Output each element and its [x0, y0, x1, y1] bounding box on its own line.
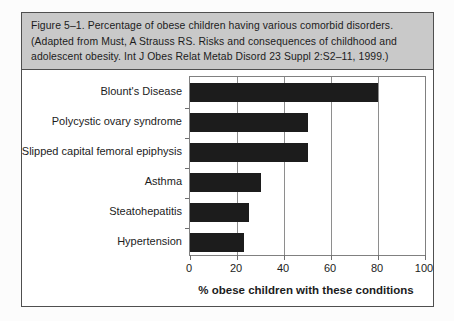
bar	[190, 83, 378, 102]
x-tick-mark	[284, 255, 285, 260]
page: Figure 5–1. Percentage of obese children…	[0, 0, 454, 321]
y-tick-mark	[185, 108, 189, 109]
caption-line: adolescent obesity. Int J Obes Relat Met…	[31, 49, 425, 65]
x-tick-label: 20	[230, 262, 242, 274]
y-tick-mark	[185, 138, 189, 139]
category-label: Slipped capital femoral epiphysis	[22, 142, 182, 161]
caption-line: (Adapted from Must, A Strauss RS. Risks …	[31, 34, 425, 50]
x-tick-mark	[378, 255, 379, 260]
x-tick-label: 40	[277, 262, 289, 274]
category-label: Blount's Disease	[100, 82, 182, 101]
gridline	[378, 77, 379, 255]
bar	[190, 233, 244, 252]
plot-area	[189, 76, 426, 256]
bar	[190, 203, 249, 222]
x-tick-mark	[190, 255, 191, 260]
bar	[190, 113, 308, 132]
bar	[190, 173, 261, 192]
x-axis-title: % obese children with these conditions	[198, 284, 413, 296]
figure-caption: Figure 5–1. Percentage of obese children…	[22, 13, 433, 70]
x-tick-label: 60	[324, 262, 336, 274]
y-tick-mark	[185, 168, 189, 169]
x-tick-mark	[237, 255, 238, 260]
y-tick-mark	[185, 198, 189, 199]
gridline	[284, 77, 285, 255]
x-tick-label: 100	[415, 262, 433, 274]
x-tick-mark	[425, 255, 426, 260]
figure-box: Figure 5–1. Percentage of obese children…	[21, 12, 434, 307]
category-label: Steatohepatitis	[109, 202, 182, 221]
gridline	[331, 77, 332, 255]
category-label: Asthma	[145, 172, 182, 191]
x-tick-mark	[331, 255, 332, 260]
x-tick-label: 80	[371, 262, 383, 274]
y-tick-mark	[185, 228, 189, 229]
x-tick-label: 0	[186, 262, 192, 274]
bar	[190, 143, 308, 162]
category-label: Polycystic ovary syndrome	[52, 112, 182, 131]
gridline	[237, 77, 238, 255]
caption-line: Figure 5–1. Percentage of obese children…	[31, 18, 425, 34]
category-label: Hypertension	[117, 232, 182, 251]
